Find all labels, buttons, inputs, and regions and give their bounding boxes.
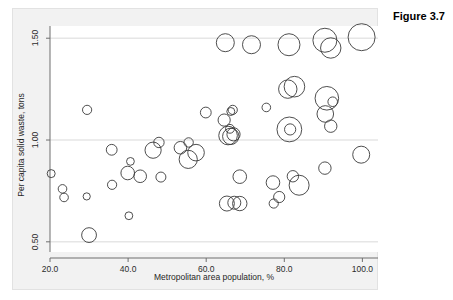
bubble-marker [134, 170, 147, 183]
bubble-markers-group [47, 24, 375, 243]
bubble-marker [83, 105, 92, 114]
bubble-marker [83, 193, 90, 200]
bubble-marker [121, 166, 135, 180]
bubble-marker [156, 172, 166, 182]
bubble-marker [82, 228, 97, 243]
scatter-plot-svg [0, 0, 453, 300]
bubble-marker [285, 124, 296, 135]
bubble-marker [321, 38, 341, 58]
bubble-marker [106, 144, 117, 155]
x-tick-label: 60.0 [186, 264, 226, 274]
y-tick-label-text: 1.50 [30, 30, 40, 47]
y-tick-label: 1.00 [24, 132, 46, 148]
bubble-marker [279, 80, 297, 98]
bubble-marker [216, 34, 234, 52]
bubble-marker [127, 158, 135, 166]
bubble-marker [262, 103, 271, 112]
bubble-marker [47, 170, 55, 178]
bubble-marker [107, 180, 116, 189]
bubble-marker [227, 128, 240, 141]
bubble-marker [179, 150, 197, 168]
x-tick-label: 80.0 [264, 264, 304, 274]
y-tick-label-text: 0.50 [30, 234, 40, 251]
figure-container: Per capita solid waste, tons Metropolita… [0, 0, 453, 300]
x-tick-label: 40.0 [108, 264, 148, 274]
bubble-marker [315, 86, 339, 110]
gridlines-group [50, 38, 378, 242]
y-tick-label: 1.50 [24, 30, 46, 46]
bubble-marker [174, 141, 187, 154]
bubble-marker [313, 28, 337, 52]
x-tick-label: 20.0 [30, 264, 70, 274]
bubble-marker [284, 76, 305, 97]
bubble-marker [223, 128, 239, 144]
bubble-marker [233, 170, 247, 184]
bubble-marker [188, 144, 205, 161]
bubble-marker [348, 24, 375, 51]
bubble-marker [125, 212, 133, 220]
bubble-marker [60, 193, 69, 202]
bubble-marker [228, 105, 237, 114]
y-tick-label-text: 1.00 [30, 132, 40, 149]
y-tick-label: 0.50 [24, 234, 46, 250]
bubble-marker [145, 142, 161, 158]
bubble-marker [266, 176, 280, 190]
bubble-marker [58, 185, 67, 194]
bubble-marker [353, 146, 370, 163]
bubble-marker [287, 171, 298, 182]
x-tick-label: 100.0 [342, 264, 382, 274]
bubble-marker [325, 120, 337, 132]
bubble-marker [328, 97, 338, 107]
axes-group [46, 26, 378, 262]
bubble-marker [278, 34, 300, 56]
figure-caption: Figure 3.7 [393, 10, 445, 22]
bubble-marker [274, 191, 285, 202]
bubble-marker [319, 162, 331, 174]
bubble-marker [289, 175, 309, 195]
bubble-marker [200, 107, 211, 118]
bubble-marker [277, 117, 302, 142]
bubble-marker [269, 199, 278, 208]
